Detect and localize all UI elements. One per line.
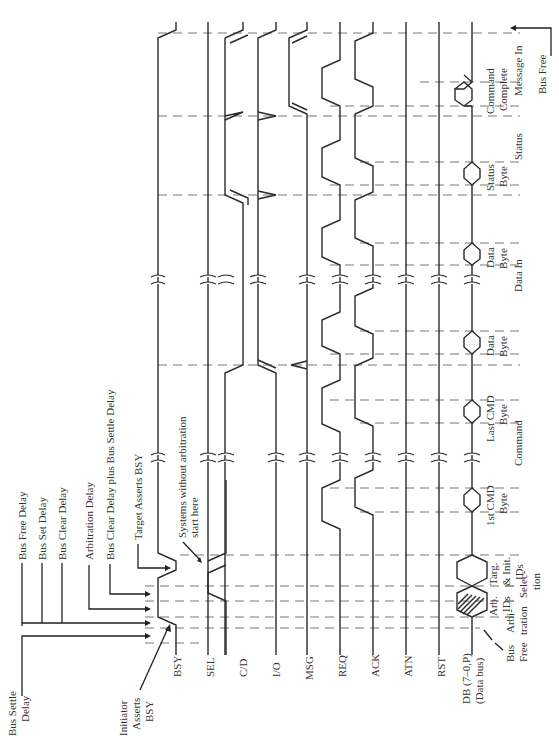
no-arbitration-label-2: start here — [188, 497, 200, 538]
signal-label-req: REQ — [336, 655, 348, 677]
signal-atn — [398, 22, 414, 655]
phase-label-arbitration-2: tration — [517, 606, 529, 635]
signal-io — [250, 22, 284, 655]
byte-label-targ-2: & Init. — [500, 556, 512, 586]
delay-label-arbitration: Arbitration Delay — [83, 482, 95, 560]
signal-label-db: DB (7–0,P) — [460, 653, 473, 704]
phase-label-command: Command — [512, 420, 524, 466]
initiator-label-2: Asserts — [130, 698, 142, 730]
signal-rst — [431, 22, 447, 655]
scsi-timing-diagram: Bus Settle Delay Bus Free Delay Bus Set … — [0, 0, 559, 736]
phase-label-status: Status — [512, 133, 524, 160]
byte-label-cmd-complete-1: Command — [484, 68, 496, 114]
signal-ack — [355, 22, 381, 655]
byte-label-last-cmd-1: Last CMD — [484, 395, 496, 442]
phase-label-arbitration-1: Arbi- — [504, 609, 516, 633]
signal-db — [455, 22, 487, 655]
signal-label-atn: ATN — [402, 656, 414, 677]
delay-label-bus-free: Bus Free Delay — [16, 491, 28, 560]
phase-label-selection-2: tion — [530, 572, 542, 590]
delay-label-bus-clear-plus-settle: Bus Clear Delay plus Bus Settle Delay — [104, 389, 116, 560]
signal-cd — [218, 22, 248, 655]
delay-label-bus-set: Bus Set Delay — [36, 497, 48, 560]
signal-sel — [200, 22, 216, 655]
byte-label-data2-1: Data — [484, 247, 496, 268]
signal-label-bsy: BSY — [171, 656, 183, 677]
delay-label-bus-settle-2: Delay — [19, 695, 31, 722]
byte-label-status-1: Status — [484, 164, 496, 191]
signal-label-sel: SEL — [204, 657, 216, 677]
initiator-label-1: Initiator — [117, 700, 129, 736]
byte-label-data2-2: Byte — [497, 248, 509, 269]
byte-label-data1-2: Byte — [497, 336, 509, 357]
signal-label-msg: MSG — [303, 656, 315, 680]
signal-label-cd: C/D — [237, 659, 249, 677]
signal-req — [322, 22, 348, 655]
byte-label-data1-1: Data — [484, 335, 496, 356]
byte-label-1st-cmd-2: Byte — [497, 493, 509, 514]
phase-label-selection-1: Selec- — [517, 570, 529, 598]
byte-label-cmd-complete-2: Complete — [497, 68, 509, 111]
byte-label-targ-1: Targ. — [487, 562, 499, 585]
signal-msg — [289, 22, 315, 655]
delay-label-bus-clear: Bus Clear Delay — [56, 487, 68, 560]
phase-label-data-in: Data In — [512, 259, 524, 292]
no-arbitration-label-1: Systems without arbitration — [176, 416, 188, 538]
phase-label-message-in: Message In — [512, 45, 524, 96]
initiator-label-3: BSY — [143, 701, 155, 722]
phase-label-bus-free-2: Free — [517, 642, 529, 662]
signal-label-io: I/O — [270, 662, 282, 677]
byte-label-1st-cmd-1: 1st CMD — [484, 485, 496, 526]
delay-arrows — [22, 542, 503, 696]
byte-label-status-2: Byte — [497, 166, 509, 187]
signal-label-rst: RST — [435, 657, 447, 677]
delay-label-target-asserts-bsy: Target Asserts BSY — [132, 454, 144, 540]
signal-bsy — [151, 22, 176, 655]
phase-label-bus-free-end: Bus Free — [536, 54, 548, 94]
signal-label-db-sub: (Data bus) — [473, 658, 486, 704]
byte-label-last-cmd-2: Byte — [497, 404, 509, 425]
signal-sel-detail — [208, 480, 226, 655]
byte-label-arb-1: Arb. — [487, 596, 499, 616]
delay-label-bus-settle: Bus Settle — [6, 691, 18, 736]
signal-label-ack: ACK — [369, 654, 381, 677]
phase-label-bus-free-1: Bus — [504, 645, 516, 662]
